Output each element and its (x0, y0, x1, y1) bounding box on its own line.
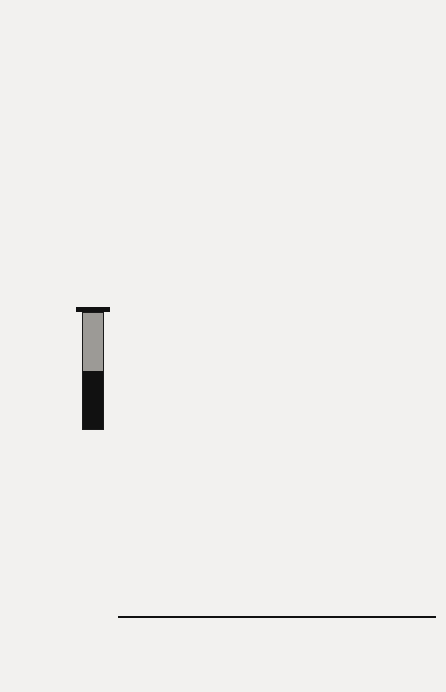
chart-figure (0, 0, 446, 692)
figure-rotation-wrapper (0, 0, 446, 692)
plot-area (118, 98, 436, 618)
x-axis-scale (96, 98, 118, 618)
bar-rows-container (118, 98, 436, 618)
